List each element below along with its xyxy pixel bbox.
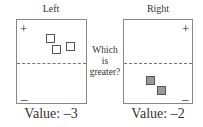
right-value-label: Value: –2 xyxy=(118,106,198,122)
negative-square xyxy=(157,86,166,95)
minus-sign: – xyxy=(182,92,189,105)
positive-square xyxy=(46,34,55,43)
question-line: greater? xyxy=(87,67,123,78)
question-text: Which is greater? xyxy=(87,45,123,78)
question-line: Which xyxy=(87,45,123,56)
left-panel: + – xyxy=(16,19,87,104)
plus-sign: + xyxy=(20,22,27,35)
positive-square xyxy=(52,45,61,54)
question-line: is xyxy=(87,56,123,67)
negative-square xyxy=(146,76,155,85)
zero-line xyxy=(17,63,86,64)
left-value-label: Value: –3 xyxy=(11,106,91,122)
positive-square xyxy=(66,42,75,51)
zero-line xyxy=(124,63,192,64)
left-panel-title: Left xyxy=(15,3,87,14)
right-panel-title: Right xyxy=(122,3,194,14)
right-panel: + – xyxy=(123,19,193,104)
plus-sign: + xyxy=(182,22,189,35)
minus-sign: – xyxy=(21,92,28,105)
